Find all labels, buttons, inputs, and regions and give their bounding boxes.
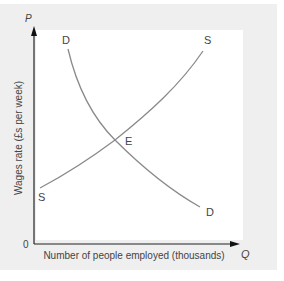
demand-curve-bottom-label: D: [206, 206, 214, 218]
supply-demand-chart: P Q 0 Number of people employed (thousan…: [0, 0, 284, 281]
x-axis-arrow-icon: [230, 241, 240, 247]
y-axis-arrow-icon: [31, 26, 37, 36]
demand-curve: [68, 49, 200, 207]
x-axis-symbol: Q: [241, 248, 250, 260]
origin-label: 0: [23, 239, 29, 250]
equilibrium-label: E: [125, 135, 132, 147]
y-axis-symbol: P: [25, 13, 32, 24]
y-axis-label: Wages rate (£s per week): [13, 81, 24, 195]
x-axis-label: Number of people employed (thousands): [43, 250, 224, 261]
supply-curve-top-label: S: [204, 34, 211, 46]
supply-curve-bottom-label: S: [38, 191, 45, 203]
supply-curve: [40, 51, 203, 188]
demand-curve-top-label: D: [62, 34, 70, 46]
